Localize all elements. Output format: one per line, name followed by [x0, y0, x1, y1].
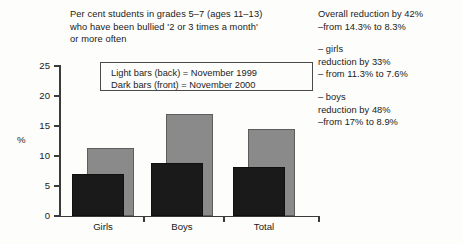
bar-boys-2000 — [151, 163, 203, 216]
y-axis-line — [59, 65, 61, 217]
y-tick-0 — [54, 215, 59, 217]
x-label-boys: Boys — [152, 221, 212, 232]
chart-legend: Light bars (back) = November 1999 Dark b… — [100, 62, 313, 91]
bar-total-2000 — [233, 167, 285, 216]
y-tick-label-10: 10 — [20, 150, 50, 161]
legend-light-bars: Light bars (back) = November 1999 — [111, 67, 312, 79]
y-tick-label-20: 20 — [20, 90, 50, 101]
x-tick-1 — [223, 216, 225, 222]
x-tick-0 — [143, 216, 145, 222]
y-tick-20 — [54, 95, 59, 97]
y-tick-label-0: 0 — [20, 210, 50, 221]
y-tick-label-15: 15 — [20, 120, 50, 131]
chart-figure: Per cent students in grades 5–7 (ages 11… — [0, 0, 463, 244]
bar-girls-2000 — [72, 174, 124, 216]
y-tick-15 — [54, 125, 59, 127]
y-tick-label-5: 5 — [20, 180, 50, 191]
y-axis-title: % — [17, 134, 26, 145]
y-tick-5 — [54, 185, 59, 187]
x-tick-2 — [318, 216, 320, 222]
y-tick-10 — [54, 155, 59, 157]
x-label-total: Total — [234, 221, 294, 232]
plot-area: % 0510152025 GirlsBoysTotal — [0, 0, 463, 244]
x-label-girls: Girls — [73, 221, 133, 232]
y-tick-label-25: 25 — [20, 60, 50, 71]
y-tick-25 — [54, 65, 59, 67]
legend-dark-bars: Dark bars (front) = November 2000 — [111, 79, 312, 91]
